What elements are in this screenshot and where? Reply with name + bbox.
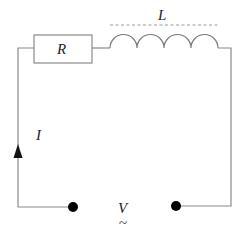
ac-source-symbol: ~ [119,215,127,231]
inductor [110,35,218,49]
rl-circuit-diagram: R L I V ~ [0,0,244,233]
left-terminal [68,202,78,212]
left-wire [18,48,73,207]
inductor-label: L [157,7,166,23]
resistor-label: R [56,41,66,57]
right-terminal [171,201,181,211]
right-wire [176,48,231,206]
current-label: I [35,127,42,143]
voltage-label: V [118,200,129,216]
current-arrow-icon [14,144,23,158]
